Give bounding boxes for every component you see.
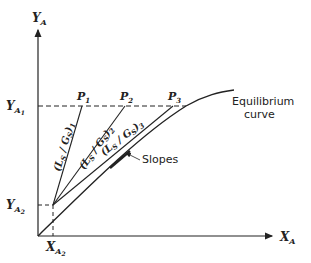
equilibrium-curve (38, 90, 234, 236)
x-axis-label: XA (279, 230, 296, 246)
slopes-label: Slopes (142, 153, 179, 166)
slopes-pointer (126, 153, 140, 160)
point-p3-label: P3 (167, 90, 181, 105)
point-p1-label: P1 (76, 90, 90, 105)
equilibrium-diagram: YA XA YA1 YA2 XA2 P1 P2 P3 (LS / GS)1 (L… (0, 0, 311, 263)
operating-line-1 (53, 106, 82, 205)
equilibrium-curve-label-2: curve (244, 108, 275, 121)
equilibrium-curve-label: Equilibrium (232, 95, 294, 108)
y-a2-label: YA2 (6, 198, 25, 215)
point-p2-label: P2 (119, 90, 133, 105)
y-a1-label: YA1 (6, 99, 25, 116)
y-axis-label: YA (32, 11, 47, 27)
x-a2-label: XA2 (45, 240, 66, 257)
